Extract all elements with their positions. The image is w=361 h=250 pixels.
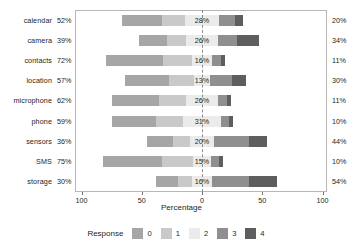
legend-label: 1 [176, 229, 180, 238]
stacked-bar [0, 55, 361, 66]
legend-swatch [189, 228, 200, 239]
legend-item[interactable]: 0 [132, 228, 151, 239]
bar-segment-4 [237, 35, 259, 46]
bar-segment-4 [235, 15, 243, 26]
legend-label: 3 [232, 229, 236, 238]
legend-item[interactable]: 2 [189, 228, 208, 239]
bar-segment-1 [178, 176, 192, 187]
stacked-bar [0, 35, 361, 46]
legend-item[interactable]: 4 [245, 228, 264, 239]
bar-segment-1 [162, 156, 193, 167]
x-axis-tick [262, 192, 263, 195]
chart-legend: Response 01234 [0, 224, 361, 242]
chart-row: SMS75%10%15% [0, 151, 361, 171]
bar-segment-1 [159, 95, 187, 106]
bar-segment-1 [173, 136, 190, 147]
bar-segment-3 [218, 95, 228, 106]
stacked-bar [0, 75, 361, 86]
stacked-bar [0, 116, 361, 127]
legend-swatch [245, 228, 256, 239]
bar-segment-4 [229, 116, 233, 127]
bar-segment-0 [112, 116, 155, 127]
x-axis-title: Percentage [0, 203, 361, 212]
likert-chart: calendar52%20%28%camera39%34%26%contacts… [0, 0, 361, 250]
legend-label: 0 [147, 229, 151, 238]
bar-segment-1 [163, 55, 192, 66]
bar-segment-0 [106, 55, 164, 66]
bar-segment-3 [210, 75, 232, 86]
bar-segment-0 [112, 95, 159, 106]
legend-item[interactable]: 3 [217, 228, 236, 239]
stacked-bar [0, 15, 361, 26]
bar-segment-4 [249, 136, 267, 147]
stacked-bar [0, 156, 361, 167]
chart-rows: calendar52%20%28%camera39%34%26%contacts… [0, 10, 361, 192]
bar-segment-0 [103, 156, 162, 167]
bar-segment-3 [219, 15, 235, 26]
legend-title: Response [87, 229, 123, 238]
legend-label: 2 [204, 229, 208, 238]
chart-row: microphone62%11%26% [0, 91, 361, 111]
x-axis-tick [202, 192, 203, 195]
chart-row: camera39%34%26% [0, 30, 361, 50]
bar-segment-4 [219, 156, 223, 167]
bar-segment-0 [156, 176, 178, 187]
bar-segment-3 [211, 156, 219, 167]
legend-swatch [217, 228, 228, 239]
bar-segment-0 [122, 15, 162, 26]
bar-segment-0 [147, 136, 174, 147]
x-axis-tick [142, 192, 143, 195]
bar-segment-1 [162, 15, 185, 26]
bar-segment-4 [227, 95, 231, 106]
chart-row: calendar52%20%28% [0, 10, 361, 30]
bar-segment-3 [212, 176, 249, 187]
chart-row: contacts72%11%16% [0, 50, 361, 70]
bar-segment-1 [169, 75, 194, 86]
bar-segment-4 [221, 55, 225, 66]
bar-segment-0 [139, 35, 167, 46]
bar-segment-0 [125, 75, 168, 86]
legend-item[interactable]: 1 [161, 228, 180, 239]
chart-row: sensors36%44%20% [0, 131, 361, 151]
stacked-bar [0, 176, 361, 187]
x-axis-tick [323, 192, 324, 195]
bar-segment-3 [212, 55, 222, 66]
stacked-bar [0, 95, 361, 106]
bar-segment-1 [167, 35, 186, 46]
bar-segment-4 [232, 75, 246, 86]
legend-swatch [161, 228, 172, 239]
x-axis-tick [82, 192, 83, 195]
legend-label: 4 [260, 229, 264, 238]
legend-swatch [132, 228, 143, 239]
bar-segment-4 [249, 176, 277, 187]
bar-segment-3 [214, 136, 249, 147]
x-axis-title-text: Percentage [161, 203, 202, 212]
bar-segment-3 [218, 35, 237, 46]
chart-row: phone59%10%31% [0, 111, 361, 131]
bar-segment-3 [221, 116, 229, 127]
chart-row: storage30%54%16% [0, 172, 361, 192]
stacked-bar [0, 136, 361, 147]
chart-row: location57%30%13% [0, 71, 361, 91]
zero-reference-line [202, 10, 203, 192]
bar-segment-1 [156, 116, 184, 127]
